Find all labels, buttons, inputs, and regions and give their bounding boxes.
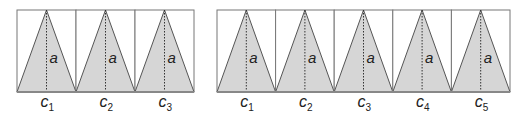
height-label: a bbox=[425, 49, 433, 66]
triangle-cell: ac4 bbox=[393, 10, 452, 113]
base-label: c4 bbox=[416, 93, 430, 113]
triangle-cell: ac3 bbox=[334, 10, 393, 113]
three-triangle-figure: ac1ac2ac3 bbox=[17, 10, 194, 113]
base-label: c2 bbox=[100, 93, 114, 113]
base-label: c3 bbox=[159, 93, 173, 113]
triangle-cell: ac5 bbox=[451, 10, 510, 113]
base-label: c1 bbox=[41, 93, 55, 113]
triangle-cell: ac1 bbox=[17, 10, 76, 113]
triangle-cell: ac1 bbox=[217, 10, 276, 113]
height-label: a bbox=[367, 49, 375, 66]
triangle-cell: ac3 bbox=[135, 10, 194, 113]
base-label: c5 bbox=[475, 93, 489, 113]
triangle-cell: ac2 bbox=[76, 10, 135, 113]
base-label: c3 bbox=[358, 93, 372, 113]
base-label: c1 bbox=[240, 93, 254, 113]
base-label: c2 bbox=[299, 93, 313, 113]
height-label: a bbox=[50, 49, 58, 66]
diagram-canvas: ac1ac2ac3ac1ac2ac3ac4ac5 bbox=[0, 0, 526, 116]
five-triangle-figure: ac1ac2ac3ac4ac5 bbox=[217, 10, 510, 113]
triangle-cell: ac2 bbox=[276, 10, 335, 113]
height-label: a bbox=[168, 49, 176, 66]
height-label: a bbox=[109, 49, 117, 66]
height-label: a bbox=[484, 49, 492, 66]
height-label: a bbox=[308, 49, 316, 66]
height-label: a bbox=[249, 49, 257, 66]
